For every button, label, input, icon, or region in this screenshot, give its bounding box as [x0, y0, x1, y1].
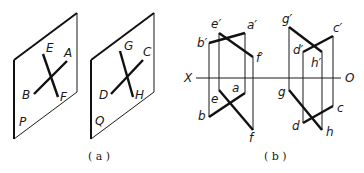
label-H: H: [135, 88, 144, 102]
label-d-prime: d′: [293, 43, 304, 57]
label-g-prime: g′: [282, 12, 293, 26]
label-O: O: [345, 71, 354, 85]
label-G: G: [124, 39, 133, 53]
label-b-prime: b′: [197, 36, 208, 50]
label-E: E: [46, 41, 54, 55]
label-f: f: [249, 131, 255, 145]
label-e: e: [211, 92, 218, 106]
label-a-prime: a′: [247, 18, 257, 32]
label-d: d: [292, 119, 300, 133]
label-f-prime: f′: [256, 51, 263, 65]
label-D: D: [99, 88, 108, 102]
label-c-prime: c′: [333, 21, 343, 35]
label-a: a: [232, 81, 239, 95]
plane-p: E A B F P: [14, 13, 77, 139]
label-e-prime: e′: [211, 17, 221, 31]
label-h: h: [326, 125, 334, 139]
label-A: A: [63, 46, 72, 60]
caption-b: ( b ): [264, 150, 287, 163]
label-h-prime: h′: [311, 56, 322, 70]
label-Q: Q: [95, 114, 104, 128]
line-ef: [43, 54, 58, 97]
label-P: P: [19, 115, 27, 129]
projection-cd-gh: g′ c′ d′ h′ g c d h: [278, 12, 344, 139]
label-g: g: [278, 85, 286, 99]
label-X: X: [183, 71, 193, 85]
caption-a: ( a ): [88, 150, 110, 163]
figure-b: X O e′ a′ b′ f′ a e b f: [183, 12, 354, 163]
plane-q: G C D H Q: [91, 13, 154, 139]
label-c: c: [337, 101, 344, 115]
label-C: C: [143, 45, 152, 59]
projection-diagram: E A B F P G C D H Q ( a ) X O: [0, 0, 364, 173]
projection-ab-ef: e′ a′ b′ f′ a e b f: [197, 17, 263, 145]
label-B: B: [22, 88, 30, 102]
label-b: b: [198, 109, 206, 123]
label-F: F: [60, 90, 68, 104]
figure-a: E A B F P G C D H Q ( a ): [14, 13, 154, 163]
